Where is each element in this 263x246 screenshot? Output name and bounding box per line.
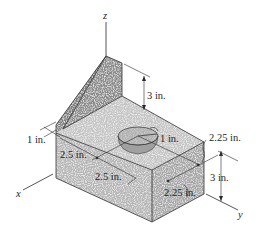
z-axis-label: z <box>102 10 107 21</box>
dim-block-height-label: 3 in. <box>210 172 229 183</box>
isometric-block-diagram: z x y 1 in. <box>0 0 263 246</box>
dim-rib-height-label: 3 in. <box>147 90 166 101</box>
z-axis: z <box>102 10 107 56</box>
dim-left-offset-label: 1 in. <box>27 134 46 145</box>
dim-y-offset-front-label: 2.25 in. <box>164 187 196 198</box>
dim-y-offset-top-label: 2.25 in. <box>209 132 241 143</box>
x-axis-label: x <box>15 188 21 199</box>
dim-x-segment-1-label: 2.5 in. <box>60 149 87 160</box>
x-axis: x <box>15 174 53 199</box>
dim-hole-radius: 1 in. <box>160 133 179 144</box>
dim-x-segment-2-label: 2.5 in. <box>95 171 122 182</box>
y-axis-label: y <box>237 209 243 220</box>
y-axis: y <box>206 194 243 220</box>
